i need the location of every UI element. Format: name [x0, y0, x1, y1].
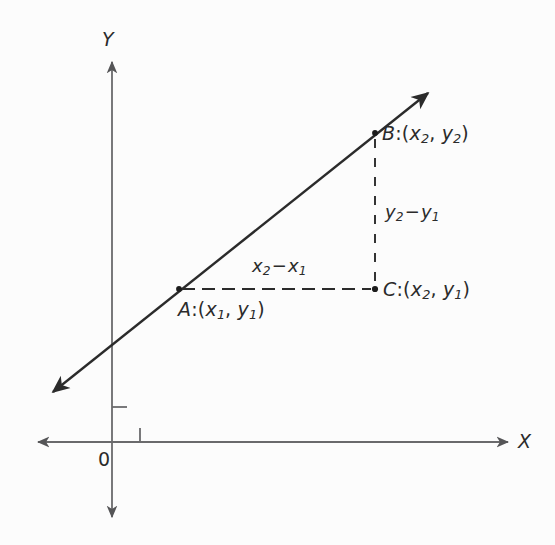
y-axis-label: Y: [102, 28, 114, 50]
delta-y-label: y2−y1: [385, 201, 440, 224]
delta-y-second-subscript: 1: [432, 210, 440, 224]
delta-y-minus: −: [404, 201, 421, 222]
point-b-marker: [372, 130, 378, 136]
delta-x-second-var: x: [288, 255, 299, 276]
point-c-comma: ,: [430, 278, 436, 300]
point-b-colon: :: [395, 122, 402, 144]
delta-y-first-var: y: [385, 201, 396, 222]
point-c-y: y: [443, 278, 454, 300]
point-a-comma: ,: [225, 298, 231, 320]
point-a-marker: [176, 286, 182, 292]
delta-y-first-subscript: 2: [396, 210, 404, 224]
delta-x-second-subscript: 1: [299, 264, 307, 278]
delta-x-first-subscript: 2: [263, 264, 271, 278]
point-a-name: A: [178, 298, 191, 320]
point-c-name: C: [383, 278, 396, 300]
point-b-name: B: [382, 122, 395, 144]
point-c-paren-open: (: [403, 278, 411, 300]
delta-y-second-var: y: [421, 201, 432, 222]
point-a-x-subscript: 1: [217, 307, 225, 322]
slope-diagram-figure: Y X 0 B:(x2, y2) A:(x1, y1) C:(x2, y1) x…: [0, 0, 555, 545]
x-axis-label: X: [518, 430, 531, 452]
point-a-paren-close: ): [257, 298, 265, 320]
point-a-colon: :: [191, 298, 198, 320]
point-c-y-subscript: 1: [454, 287, 462, 302]
point-a-x: x: [205, 298, 216, 320]
point-c-paren-close: ): [463, 278, 471, 300]
origin-label: 0: [98, 448, 110, 470]
point-b-comma: ,: [429, 122, 435, 144]
point-b-label: B:(x2, y2): [382, 122, 469, 146]
point-c-label: C:(x2, y1): [383, 278, 470, 302]
point-c-marker: [372, 286, 378, 292]
point-a-label: A:(x1, y1): [178, 298, 265, 322]
point-a-y: y: [238, 298, 249, 320]
secant-line: [53, 93, 428, 392]
point-b-x: x: [409, 122, 420, 144]
delta-x-label: x2−x1: [252, 255, 307, 278]
point-b-paren-close: ): [461, 122, 469, 144]
point-b-y: y: [442, 122, 453, 144]
point-b-x-subscript: 2: [421, 131, 429, 146]
delta-x-minus: −: [271, 255, 288, 276]
point-c-x: x: [411, 278, 422, 300]
delta-x-first-var: x: [252, 255, 263, 276]
